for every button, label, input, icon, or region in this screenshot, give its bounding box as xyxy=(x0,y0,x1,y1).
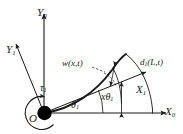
y0-axis-label: Y0 xyxy=(37,7,47,19)
tau1-torque-label: τ1 xyxy=(40,83,47,94)
figure-canvas: Y0 Y1 X0 X1 τ1 θ1 xθ1 w(x,t) d1(L,t) O xyxy=(0,0,183,134)
x1-axis-line xyxy=(44,72,146,113)
origin-label: O xyxy=(29,113,37,124)
theta1-angle-label: θ1 xyxy=(71,100,79,111)
hub-joint xyxy=(37,106,51,120)
x0-axis-label: X0 xyxy=(165,106,175,118)
x-theta1-label: xθ1 xyxy=(101,92,113,103)
w-deflection-label: w(x,t) xyxy=(62,59,83,68)
d1-tip-deflection-label: d1(L,t) xyxy=(140,58,163,68)
x1-axis-label: X1 xyxy=(136,84,146,96)
y1-axis-label: Y1 xyxy=(6,44,16,56)
deflection-station-arc xyxy=(113,69,122,105)
flexible-beam-curve xyxy=(46,54,126,113)
y1-axis-line xyxy=(16,44,44,113)
